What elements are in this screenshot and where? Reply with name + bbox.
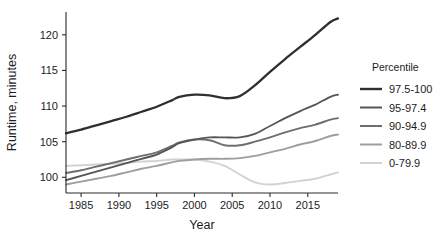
x-tick-label: 1985 <box>69 199 93 211</box>
y-axis-title: Runtime, minutes <box>5 54 19 151</box>
y-tick-label: 110 <box>40 100 58 112</box>
legend-title: Percentile <box>372 61 419 73</box>
x-tick-label: 2000 <box>182 199 206 211</box>
series-line-95-97-4 <box>66 95 338 181</box>
series-group <box>66 18 338 184</box>
y-tick-label: 120 <box>40 29 58 41</box>
chart-legend: Percentile97.5-10095-97.490-94.980-89.90… <box>360 61 432 169</box>
legend-label-0: 97.5-100 <box>389 83 432 95</box>
series-line-0-79-9 <box>66 159 338 184</box>
series-line-80-89-9 <box>66 135 338 185</box>
x-tick-label: 2005 <box>220 199 244 211</box>
chart-figure: 1001051101151201985199019952000200520102… <box>0 0 436 240</box>
x-tick-label: 1995 <box>144 199 168 211</box>
legend-label-3: 80-89.9 <box>389 139 426 151</box>
y-tick-label: 105 <box>40 136 58 148</box>
y-tick-label: 115 <box>40 64 58 76</box>
series-line-97-5-100 <box>66 18 338 133</box>
axes-group: 1001051101151201985199019952000200520102… <box>5 12 338 232</box>
line-chart: 1001051101151201985199019952000200520102… <box>0 0 436 240</box>
x-tick-label: 2015 <box>296 199 320 211</box>
legend-label-2: 90-94.9 <box>389 120 426 132</box>
x-tick-label: 2010 <box>258 199 282 211</box>
x-tick-label: 1990 <box>107 199 131 211</box>
legend-label-4: 0-79.9 <box>389 157 420 169</box>
legend-label-1: 95-97.4 <box>389 102 426 114</box>
y-tick-label: 100 <box>40 171 58 183</box>
x-axis-title: Year <box>189 218 214 232</box>
